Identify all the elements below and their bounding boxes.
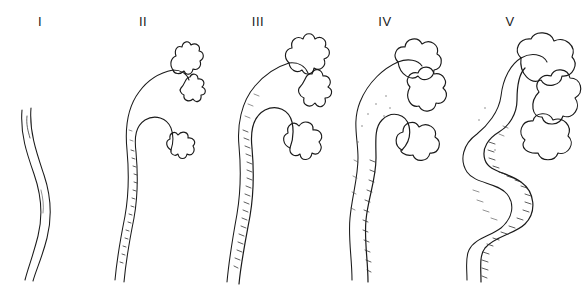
panel-label-4: IV <box>365 14 405 29</box>
ureter-outer-wall <box>463 58 521 280</box>
grade-5-drawing <box>455 30 587 301</box>
panel-art-4 <box>346 30 468 301</box>
panel-grade-4: IV <box>346 0 468 301</box>
panel-label-3: III <box>238 14 278 29</box>
grade-3-drawing <box>221 30 346 301</box>
panel-label-1: I <box>20 14 60 29</box>
grade-1-drawing <box>0 30 103 301</box>
calyx-middle <box>299 70 332 107</box>
panel-art-2 <box>103 30 221 301</box>
panel-label-2: II <box>123 14 163 29</box>
ureter-inner-wall <box>124 117 173 282</box>
calyx-lower <box>396 122 439 160</box>
calyx-balloon-lower <box>521 114 571 160</box>
ureter-inner-wall <box>365 114 409 282</box>
calyx-upper <box>285 34 329 74</box>
panel-art-1 <box>0 30 103 301</box>
calyx-upper <box>171 42 203 74</box>
hydronephrosis-grading-figure: I II <box>0 0 587 301</box>
calyx-lower <box>284 122 322 159</box>
ureter-shading <box>473 107 531 278</box>
grade-4-drawing <box>346 30 468 301</box>
renal-pelvis <box>398 60 422 66</box>
panel-grade-1: I <box>0 0 103 301</box>
ureter-shading <box>120 130 137 263</box>
panel-grade-2: II <box>103 0 221 301</box>
calyx-middle <box>407 67 446 111</box>
ureter-inner-wall <box>481 68 533 282</box>
calyx-lower <box>167 132 195 158</box>
panel-label-5: V <box>490 14 530 29</box>
ureter-right-wall <box>31 108 50 281</box>
calyx-balloon-middle <box>533 70 581 124</box>
ureter-shading <box>27 116 30 138</box>
panel-art-3 <box>221 30 346 301</box>
ureter-inner-wall <box>239 108 293 284</box>
ureter-left-wall <box>22 110 41 280</box>
ureter-shading <box>351 95 391 272</box>
ureter-outer-wall <box>349 62 398 280</box>
panel-grade-3: III <box>221 0 346 301</box>
panel-grade-5: V <box>455 0 587 301</box>
panel-art-5 <box>455 30 587 301</box>
calyx-middle <box>180 74 205 101</box>
renal-pelvis <box>521 55 547 62</box>
ureter-outer-wall <box>115 70 173 280</box>
ureter-shading-mid <box>41 190 43 213</box>
grade-2-drawing <box>103 30 221 301</box>
calyx-balloon-upper <box>517 33 575 86</box>
